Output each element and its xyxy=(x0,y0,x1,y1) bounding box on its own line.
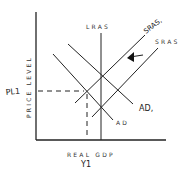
x-axis-label: REAL GDP xyxy=(67,151,115,158)
ad-as-diagram: LRAS SRAS SRAS, AD AD, PL1 Y1 REAL GDP P… xyxy=(0,0,185,171)
pl1-label: PL1 xyxy=(5,87,20,97)
left-arrow-icon xyxy=(127,52,143,62)
lras-label: LRAS xyxy=(86,23,110,30)
y-axis-label: PRICE LEVEL xyxy=(25,56,32,118)
sras1-curve xyxy=(75,35,145,103)
ad-curve xyxy=(53,54,113,120)
sras1-label: SRAS, xyxy=(142,17,163,36)
y1-label: Y1 xyxy=(80,160,91,169)
ad1-label: AD, xyxy=(139,104,153,113)
sras-label: SRAS xyxy=(155,38,179,45)
ad-label: AD xyxy=(116,119,129,126)
